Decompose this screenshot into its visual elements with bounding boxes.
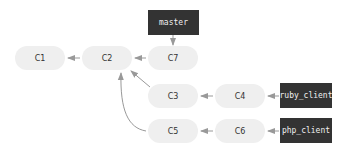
ref-master: master	[148, 10, 199, 35]
commit-c3: C3	[148, 84, 198, 108]
edge-c3-c2	[131, 71, 150, 87]
edge-c5-c2	[121, 73, 146, 131]
commit-c1: C1	[15, 46, 65, 70]
ref-php-client: php_client	[280, 118, 332, 143]
commit-c6: C6	[215, 119, 265, 143]
ref-ruby-client: ruby_client	[280, 83, 332, 108]
commit-c7: C7	[148, 46, 198, 70]
commit-c5: C5	[148, 119, 198, 143]
commit-c4: C4	[215, 84, 265, 108]
commit-c2: C2	[82, 46, 132, 70]
